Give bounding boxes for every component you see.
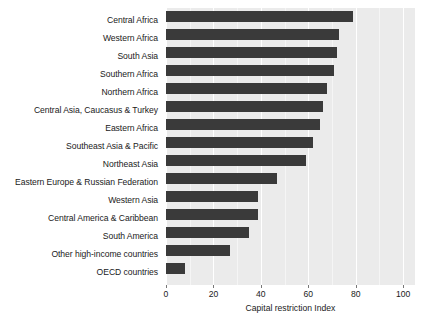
plot-panel	[166, 8, 415, 285]
x-tick-mark	[403, 285, 404, 288]
x-axis: 020406080100	[166, 285, 415, 305]
bar	[166, 191, 258, 202]
x-tick-label: 100	[396, 289, 410, 299]
x-tick-label: 20	[209, 289, 219, 299]
y-axis-label: Southeast Asia & Pacific	[66, 137, 158, 155]
capital-restriction-index-bar-chart: Central AfricaWestern AfricaSouth AsiaSo…	[0, 0, 436, 325]
bar	[166, 101, 323, 112]
y-axis-label: South Asia	[117, 47, 158, 65]
bar	[166, 227, 249, 238]
y-axis-label: Southern Africa	[100, 65, 158, 83]
x-tick-mark	[213, 285, 214, 288]
y-axis-label: Other high-income countries	[51, 245, 158, 263]
bar	[166, 47, 337, 58]
bar-series	[166, 11, 415, 281]
x-tick-mark	[356, 285, 357, 288]
bar	[166, 65, 334, 76]
bar	[166, 11, 353, 22]
y-axis-label: Northeast Asia	[103, 155, 158, 173]
y-axis-label: Western Asia	[108, 191, 158, 209]
x-tick-mark	[308, 285, 309, 288]
x-tick-label: 80	[351, 289, 361, 299]
bar	[166, 29, 339, 40]
bar	[166, 137, 313, 148]
x-axis-title: Capital restriction Index	[166, 303, 415, 313]
bar	[166, 155, 306, 166]
y-axis-label: Eastern Africa	[105, 119, 158, 137]
y-axis-label: Western Africa	[103, 29, 158, 47]
x-tick-label: 60	[304, 289, 314, 299]
bar	[166, 209, 258, 220]
x-tick-label: 0	[164, 289, 169, 299]
bar	[166, 173, 277, 184]
bar	[166, 263, 185, 274]
x-tick-mark	[261, 285, 262, 288]
x-tick-label: 40	[256, 289, 266, 299]
y-axis-label: Northern Africa	[101, 83, 158, 101]
x-tick-mark	[166, 285, 167, 288]
y-axis-label: Eastern Europe & Russian Federation	[15, 173, 158, 191]
y-axis-label: Central America & Caribbean	[48, 209, 158, 227]
y-axis-category-labels: Central AfricaWestern AfricaSouth AsiaSo…	[0, 11, 162, 281]
y-axis-label: Central Asia, Caucasus & Turkey	[34, 101, 158, 119]
bar	[166, 119, 320, 130]
y-axis-label: South America	[103, 227, 158, 245]
bar	[166, 83, 327, 94]
y-axis-label: Central Africa	[107, 11, 158, 29]
bar	[166, 245, 230, 256]
y-axis-label: OECD countries	[97, 263, 158, 281]
